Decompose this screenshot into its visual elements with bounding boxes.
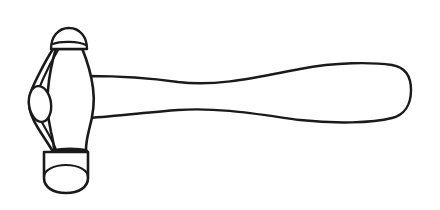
- hammer-line-drawing: ball-peen-hammer Outline line art of a b…: [0, 0, 440, 210]
- striking-face: [44, 152, 88, 193]
- hammer-head-body: [47, 48, 94, 150]
- image-canvas: ball-peen-hammer Outline line art of a b…: [0, 0, 440, 210]
